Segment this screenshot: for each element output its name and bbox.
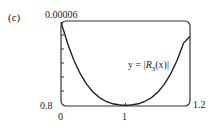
curve-line <box>61 22 190 105</box>
plot-area <box>0 0 212 131</box>
axes-frame <box>61 21 190 106</box>
